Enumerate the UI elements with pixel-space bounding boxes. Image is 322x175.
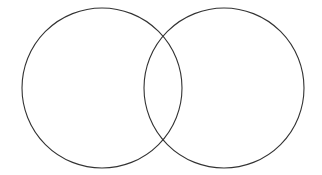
left-circle — [22, 8, 182, 168]
venn-diagram — [0, 0, 322, 175]
venn-svg — [0, 0, 322, 175]
right-circle — [144, 8, 304, 168]
